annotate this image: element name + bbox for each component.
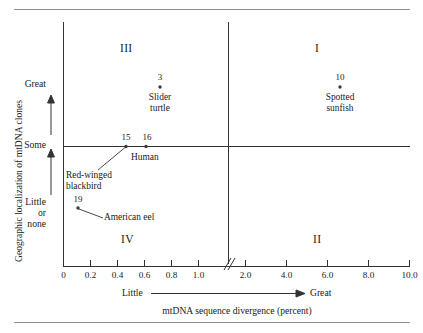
species-label-red-winged-blackbird-line1: Red-winged: [66, 170, 112, 181]
quadrant-label-I: I: [315, 42, 319, 55]
x-axis-low-label: Little: [122, 288, 143, 299]
x-axis-break-icon: [224, 258, 235, 270]
data-point-label-3: 3: [158, 72, 163, 82]
data-point-label-16: 16: [143, 132, 152, 142]
y-tick-label-great: Great: [6, 79, 46, 90]
plot-graphics: [0, 0, 423, 333]
leader-line-american-eel: [79, 209, 103, 218]
x-tick-label-0-4: 0.4: [112, 270, 123, 280]
quadrant-label-II: II: [313, 233, 321, 246]
y-tick-label-little-line3: none: [6, 219, 46, 230]
x-axis-title: mtDNA sequence divergence (percent): [162, 306, 311, 317]
data-point-label-19: 19: [74, 194, 83, 204]
y-axis-arrow-upper: [48, 95, 55, 135]
x-tick-label-8-0: 8.0: [363, 270, 374, 280]
y-axis-arrow-lower: [48, 149, 55, 195]
species-label-slider-turtle-line1: Slider: [149, 92, 171, 103]
quadrant-label-IV: IV: [121, 233, 134, 246]
x-tick-label-0-6: 0.6: [139, 270, 150, 280]
data-point-10: [338, 85, 341, 88]
data-point-label-15: 15: [122, 132, 131, 142]
species-label-american-eel: American eel: [104, 212, 154, 223]
x-axis-high-label: Great: [310, 288, 331, 299]
species-label-spotted-sunfish-line1: Spotted: [326, 92, 355, 103]
figure-container: Geographic localization of mtDNA clones …: [0, 0, 423, 333]
x-tick-label-4-0: 4.0: [281, 270, 292, 280]
data-point-16: [144, 145, 147, 148]
x-axis-direction-arrow: [151, 290, 305, 297]
data-point-3: [158, 85, 161, 88]
x-tick-label-0-2: 0.2: [85, 270, 96, 280]
y-axis-title: Geographic localization of mtDNA clones: [14, 100, 25, 262]
species-label-red-winged-blackbird-line2: blackbird: [66, 181, 101, 192]
x-tick-label-0-8: 0.8: [166, 270, 177, 280]
species-label-human: Human: [131, 152, 159, 163]
quadrant-label-III: III: [120, 42, 132, 55]
x-tick-label-1-0: 1.0: [193, 270, 204, 280]
species-label-slider-turtle-line2: turtle: [150, 103, 170, 114]
x-tick-label-6-0: 6.0: [322, 270, 333, 280]
x-tick-label-0: 0: [61, 270, 66, 280]
y-tick-label-some: Some: [6, 140, 46, 151]
x-tick-label-10-0: 10.0: [401, 270, 417, 280]
x-tick-label-2-0: 2.0: [240, 270, 251, 280]
data-point-label-10: 10: [336, 72, 345, 82]
species-label-spotted-sunfish-line2: sunfish: [326, 103, 353, 114]
leader-line-red-winged-blackbird: [98, 148, 125, 171]
x-axis-ticks: [64, 260, 410, 267]
